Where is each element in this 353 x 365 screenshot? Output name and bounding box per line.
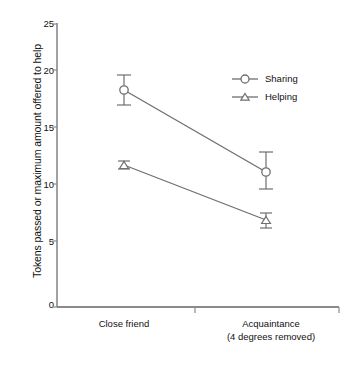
legend-label-helping: Helping	[265, 91, 297, 102]
series-sharing-line	[124, 90, 266, 172]
data-point-helping-close-friend	[120, 162, 129, 169]
series-helping	[118, 161, 272, 228]
chart-figure: Tokens passed or maximum amount offered …	[0, 0, 353, 365]
legend-label-sharing: Sharing	[265, 73, 298, 84]
x-tick-label-acquaintance-sub: (4 degrees removed)	[207, 331, 335, 343]
plot-area	[0, 0, 353, 365]
x-tick-label-close-friend: Close friend	[74, 318, 174, 330]
legend-glyphs	[232, 75, 258, 100]
legend-marker-circle-icon	[241, 75, 249, 83]
x-tick-label-acquaintance: Acquaintance	[207, 318, 335, 330]
data-point-sharing-close-friend	[120, 86, 128, 94]
data-point-helping-acquaintance	[262, 217, 271, 224]
data-point-sharing-acquaintance	[262, 168, 270, 176]
series-helping-line	[124, 165, 266, 220]
